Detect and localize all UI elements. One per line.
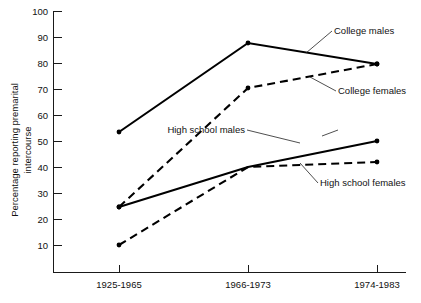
y-tick-label-100: 100 <box>32 6 48 17</box>
series-line-high-school-males <box>119 141 377 207</box>
series-line-high-school-females <box>119 162 377 245</box>
y-tick-label-70: 70 <box>37 84 48 95</box>
annotation-college-males: College males <box>306 25 394 53</box>
y-tick-label-20: 20 <box>37 214 48 225</box>
annotation-label-college-females: College females <box>338 85 406 96</box>
annotation-label-high-school-females: High school females <box>320 177 406 188</box>
line-chart: Percentage reporting premarital intercou… <box>0 0 421 303</box>
annotation-label-high-school-males: High school males <box>167 124 245 135</box>
data-point-college-females-2 <box>246 86 251 91</box>
x-tick-label-1925-1965: 1925-1965 <box>96 279 141 290</box>
y-tick-label-30: 30 <box>37 188 48 199</box>
x-axis-tick-labels: 1925-1965 1966-1973 1974-1983 <box>96 279 399 290</box>
y-tick-label-50: 50 <box>37 136 48 147</box>
leader-line-college-females <box>310 77 336 91</box>
annotation-college-females: College females <box>310 77 406 96</box>
data-point-high-school-males-3 <box>375 139 380 144</box>
chart-container: Percentage reporting premarital intercou… <box>0 0 421 303</box>
data-point-high-school-males-1 <box>117 205 122 210</box>
axes <box>54 11 406 273</box>
leader-line-high-school-females <box>300 163 318 183</box>
data-point-high-school-females-3 <box>375 160 380 165</box>
y-tick-label-60: 60 <box>37 110 48 121</box>
x-axis-ticks <box>120 265 378 273</box>
y-axis-title-line1: Percentage reporting premarital <box>9 83 20 217</box>
data-point-high-school-females-1 <box>117 243 122 248</box>
annotation-high-school-females: High school females <box>300 163 406 188</box>
data-point-college-females-3 <box>375 62 380 67</box>
data-point-college-males-1 <box>117 130 122 135</box>
leader-line-high-school-males <box>322 130 338 136</box>
y-axis-title-line2: intercourse <box>22 127 33 174</box>
x-tick-label-1974-1983: 1974-1983 <box>354 279 399 290</box>
series-high-school-males <box>117 139 380 210</box>
y-axis-ticks <box>54 12 62 246</box>
y-tick-label-40: 40 <box>37 162 48 173</box>
series-high-school-females <box>117 160 380 248</box>
leader-line-high-school-males-2 <box>247 130 300 143</box>
y-axis-title: Percentage reporting premarital intercou… <box>9 83 33 217</box>
annotation-high-school-males: High school males <box>167 124 338 143</box>
y-axis-tick-labels: 100 90 80 70 60 50 40 30 20 10 <box>32 6 48 251</box>
x-tick-label-1966-1973: 1966-1973 <box>225 279 270 290</box>
annotation-label-college-males: College males <box>334 25 394 36</box>
y-tick-label-90: 90 <box>37 32 48 43</box>
y-tick-label-80: 80 <box>37 58 48 69</box>
data-point-college-males-2 <box>246 41 251 46</box>
leader-line-college-males <box>306 31 332 53</box>
y-tick-label-10: 10 <box>37 240 48 251</box>
